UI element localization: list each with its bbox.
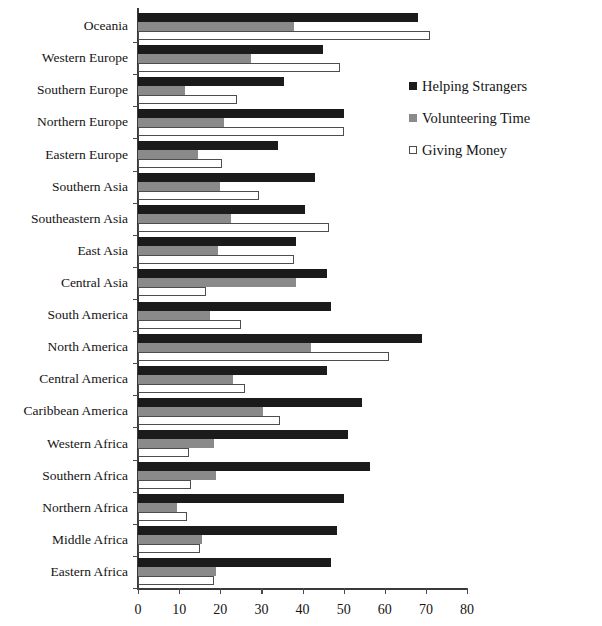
category-label: East Asia (77, 243, 128, 258)
category-label: Northern Europe (37, 114, 128, 129)
category-label: Eastern Africa (50, 564, 128, 579)
bar-0 (138, 334, 422, 343)
bar-0 (138, 526, 337, 535)
bar-group (138, 331, 467, 363)
category-label: Oceania (84, 18, 128, 33)
bar-group (138, 363, 467, 395)
bar-group (138, 556, 467, 588)
value-tick-label: 40 (296, 602, 310, 618)
bar-1 (138, 471, 216, 480)
bar-0 (138, 558, 331, 567)
bar-2 (138, 416, 280, 425)
category-label: South America (47, 307, 128, 322)
value-tick-label: 20 (213, 602, 227, 618)
bar-1 (138, 375, 233, 384)
bar-2 (138, 63, 340, 72)
bar-0 (138, 494, 344, 503)
bar-2 (138, 127, 344, 136)
legend-label: Volunteering Time (422, 110, 530, 126)
bar-2 (138, 191, 259, 200)
bar-2 (138, 512, 187, 521)
legend-item: Helping Strangers (409, 78, 527, 94)
bar-group (138, 171, 467, 203)
bar-1 (138, 567, 216, 576)
bar-2 (138, 320, 241, 329)
bar-1 (138, 439, 214, 448)
category-label: Central America (39, 371, 128, 386)
category-label: Southern Asia (52, 179, 128, 194)
filled-dark-square-icon (409, 82, 417, 90)
bar-chart: OceaniaWestern EuropeSouthern EuropeNort… (0, 0, 602, 626)
bar-2 (138, 159, 222, 168)
category-label: Northern Africa (42, 500, 128, 515)
plot-area: 01020304050607080 (138, 10, 467, 588)
bar-1 (138, 503, 177, 512)
category-label: North America (47, 339, 128, 354)
value-tick-label: 70 (419, 602, 433, 618)
bar-0 (138, 302, 331, 311)
bar-1 (138, 182, 220, 191)
category-label: Middle Africa (52, 532, 128, 547)
bar-group (138, 235, 467, 267)
bar-0 (138, 430, 348, 439)
value-tick-label: 80 (460, 602, 474, 618)
bar-2 (138, 576, 214, 585)
value-tick (220, 588, 221, 594)
bar-0 (138, 366, 327, 375)
value-tick (138, 588, 139, 594)
bar-0 (138, 45, 323, 54)
value-tick (467, 588, 468, 594)
category-label: Western Africa (47, 436, 128, 451)
bar-group (138, 460, 467, 492)
bar-0 (138, 173, 315, 182)
legend-label: Helping Strangers (422, 78, 527, 94)
bar-0 (138, 269, 327, 278)
bar-1 (138, 54, 251, 63)
bar-0 (138, 237, 296, 246)
bar-0 (138, 77, 284, 86)
category-label: Southeastern Asia (31, 211, 128, 226)
bar-0 (138, 109, 344, 118)
bar-1 (138, 535, 202, 544)
bar-group (138, 10, 467, 42)
value-tick-label: 60 (378, 602, 392, 618)
value-tick-label: 10 (172, 602, 186, 618)
category-label: Eastern Europe (45, 147, 128, 162)
value-tick-label: 30 (254, 602, 268, 618)
bar-1 (138, 278, 296, 287)
bar-0 (138, 462, 370, 471)
bar-1 (138, 343, 311, 352)
bar-group (138, 395, 467, 427)
bar-group (138, 492, 467, 524)
bar-2 (138, 352, 389, 361)
bar-2 (138, 223, 329, 232)
bar-group (138, 267, 467, 299)
bar-2 (138, 544, 200, 553)
value-tick (261, 588, 262, 594)
bar-2 (138, 255, 294, 264)
bar-group (138, 427, 467, 459)
bar-group (138, 299, 467, 331)
bar-2 (138, 287, 206, 296)
bar-0 (138, 13, 418, 22)
bar-1 (138, 150, 198, 159)
bar-1 (138, 214, 231, 223)
bar-2 (138, 31, 430, 40)
value-tick-label: 50 (337, 602, 351, 618)
bar-2 (138, 384, 245, 393)
category-label: Southern Europe (37, 82, 128, 97)
bar-1 (138, 118, 224, 127)
bar-2 (138, 448, 189, 457)
bar-1 (138, 22, 294, 31)
category-label: Caribbean America (23, 403, 128, 418)
bar-1 (138, 86, 185, 95)
category-axis-labels: OceaniaWestern EuropeSouthern EuropeNort… (0, 10, 133, 588)
bar-0 (138, 398, 362, 407)
filled-gray-square-icon (409, 114, 417, 122)
bar-2 (138, 95, 237, 104)
bar-0 (138, 141, 278, 150)
bar-1 (138, 311, 210, 320)
bar-1 (138, 407, 263, 416)
value-tick (426, 588, 427, 594)
bar-0 (138, 205, 305, 214)
